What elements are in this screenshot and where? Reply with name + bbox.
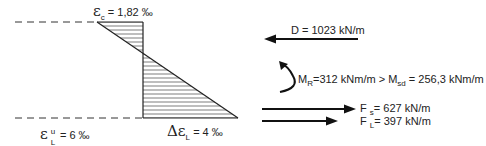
subscript: L	[51, 138, 55, 146]
value: = 627 kN/m	[374, 102, 431, 114]
moment-label: MR=312 kNm/m > Msd = 256,3 kNm/m	[298, 73, 484, 85]
value: = 6 ‰	[60, 129, 90, 141]
steel-force-arrow	[262, 105, 356, 114]
subscript: L	[186, 133, 190, 142]
ultimate-strain-label: ε u L = 6 ‰	[40, 125, 90, 143]
value: = 397 kN/m	[374, 115, 431, 127]
delta-epsilon-symbol: Δε	[167, 122, 186, 140]
value: = 4 ‰	[193, 126, 223, 138]
subscript: sd	[397, 79, 405, 88]
moment-symbol: M	[298, 73, 307, 85]
epsilon-symbol: ε	[40, 125, 48, 143]
moment-comparison: =312 kNm/m > M	[313, 73, 397, 85]
laminate-force-arrow	[262, 117, 338, 126]
subscript: L	[370, 121, 374, 130]
epsilon-symbol: ε	[93, 2, 101, 20]
force-symbol: F	[360, 102, 367, 114]
value: = 1,82 ‰	[108, 6, 153, 18]
moment-value: = 256,3 kNm/m	[409, 73, 484, 85]
laminate-force-label: F L= 397 kN/m	[360, 115, 431, 127]
compression-force-label: D = 1023 kN/m	[291, 24, 365, 36]
superscript: u	[51, 127, 55, 136]
subscript: R	[307, 79, 313, 88]
force-symbol: F	[360, 115, 367, 127]
subscript: c	[101, 13, 105, 22]
top-strain-label: εc = 1,82 ‰	[93, 2, 153, 20]
laminate-strain-label: ΔεL = 4 ‰	[167, 122, 223, 140]
moment-arrow	[279, 61, 295, 92]
steel-force-label: F s= 627 kN/m	[360, 102, 430, 114]
